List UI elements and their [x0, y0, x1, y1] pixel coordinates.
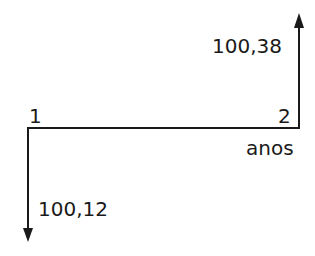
up-arrowhead-icon [294, 13, 304, 28]
period-label-1: 1 [29, 106, 42, 126]
outflow-value-label: 100,12 [38, 199, 108, 219]
period-label-2: 2 [278, 106, 291, 126]
inflow-value-label: 100,38 [212, 36, 282, 56]
time-axis-label: anos [246, 138, 294, 158]
down-arrowhead-icon [23, 228, 33, 242]
